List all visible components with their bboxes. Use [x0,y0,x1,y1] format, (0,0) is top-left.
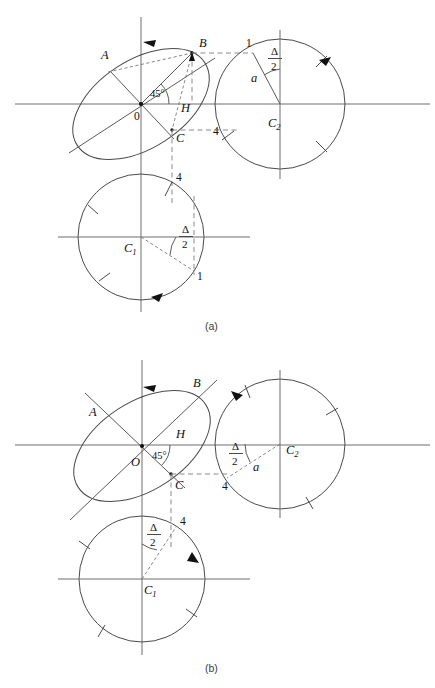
panel-b-caption: (b) [205,662,218,674]
panel-b-circle-C1-tick-1 [79,541,90,549]
panel-a-circle-C1-fraction: Δ 2 [179,223,193,250]
panel-b: A B H C O 45° C2 a Δ 2 C1 Δ 2 [15,360,430,674]
panel-a-circle-C2-center-label: C2 [268,116,281,132]
panel-a-origin-dot [139,102,143,106]
panel-b-circle-C1-fraction: Δ 2 [147,521,161,548]
panel-a-circle-C2-point-label: 1 [246,37,252,49]
panel-a-circle-C1-point-label: 1 [197,270,203,282]
panel-b-dimension-label-vertical: 4 [180,515,186,527]
panel-b-ellipse-rotation-arrow [143,385,156,392]
panel-a-circle-C1-fraction-numerator: Δ [182,223,189,235]
panel-a-caption: (a) [205,320,218,332]
panel-a-circle-C1-tick-3 [99,273,110,281]
panel-b-circle-C1-rotation-arrow [187,552,199,563]
panel-a-circle-C1-angle-arc [170,237,176,255]
panel-a-label-H: H [180,101,191,115]
figure-root: A B H C 0 45° C2 1 a Δ 2 C1 1 Δ [0,0,435,688]
panel-b-circle-C2-fraction-numerator: Δ [232,440,239,452]
panel-a-label-origin: 0 [134,110,140,122]
panel-b-circle-C2-angle-arc [245,444,250,462]
panel-a-chord-AB [108,53,192,72]
panel-a-circle-C1-fraction-denominator: 2 [182,238,188,250]
panel-a-circle-C1-tick-1 [165,182,172,196]
panel-b-label-C: C [175,478,184,492]
panel-a-circle-C2-radius-label: a [251,71,257,85]
panel-a-circle-C2-fraction-denominator: 2 [271,60,277,72]
panel-b-label-H: H [175,427,186,441]
panel-b-label-origin: O [131,455,140,469]
panel-a-chord-BC [172,53,192,130]
panel-a-dimension-label-horizontal: 4 [213,125,219,137]
panel-b-circle-C1-center-label: C1 [144,583,157,599]
panel-b-circle-C1-fraction-denominator: 2 [150,536,156,548]
panel-a-label-B: B [199,36,207,50]
panel-a-circle-C2-tick-2 [316,141,327,152]
panel-b-circle-C2-fraction: Δ 2 [229,440,243,467]
panel-a-dimension-label-vertical: 4 [176,171,182,183]
panel-a-label-A: A [100,48,109,62]
panel-a-label-angle-45: 45° [150,88,165,99]
panel-b-label-A: A [88,405,97,419]
panel-a-circle-C2-tick-3 [222,131,234,140]
panel-a-circle-C1-center-label: C1 [124,241,137,257]
panel-b-circle-C1-fraction-numerator: Δ [150,521,157,533]
panel-a: A B H C 0 45° C2 1 a Δ 2 C1 1 Δ [15,17,430,332]
panel-a-circle-C1-rotation-arrow [151,293,163,302]
panel-a-circle-C1-tick-2 [88,205,98,214]
panel-b-dimension-label-horizontal: 4 [222,480,228,492]
panel-b-label-angle-45: 45° [152,450,167,461]
panel-b-label-B: B [193,376,201,390]
panel-b-axis-OB-extended [70,380,217,520]
panel-b-circle-C2-radius-label: a [253,460,259,474]
panel-b-origin-dot [140,444,144,448]
panel-a-circle-C2-fraction-numerator: Δ [271,45,278,57]
panel-a-label-C: C [176,131,185,145]
panel-b-circle-C2-fraction-denominator: 2 [232,455,238,467]
diagram-canvas: A B H C 0 45° C2 1 a Δ 2 C1 1 Δ [0,0,435,688]
panel-a-ellipse-rotation-arrow [143,40,156,47]
